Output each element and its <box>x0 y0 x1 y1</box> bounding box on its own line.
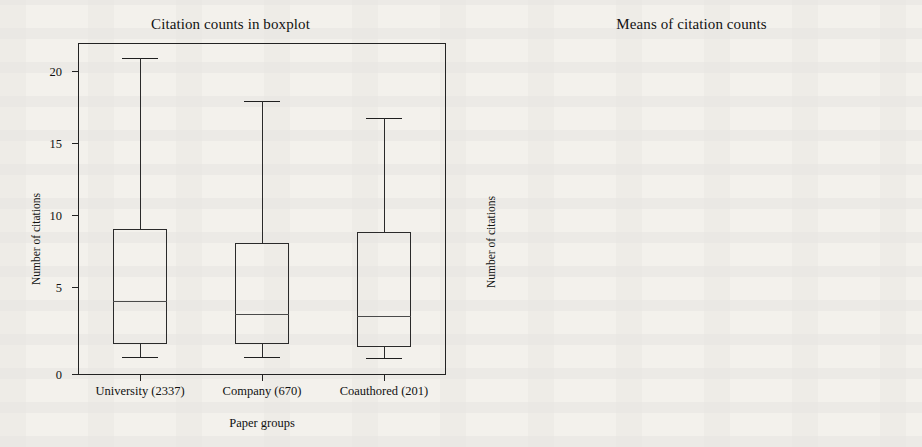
boxplot-xtick-company <box>262 374 263 381</box>
boxplot-xtick-coauthored <box>384 374 385 381</box>
box-iqr <box>357 232 411 347</box>
box-median-line <box>113 301 167 302</box>
boxplot-xtick-label-coauthored: Coauthored (201) <box>340 384 429 399</box>
boxplot-ytick-5: 5 <box>72 287 79 288</box>
box-median-line <box>357 316 411 317</box>
barchart-y-axis-label: Number of citations <box>485 196 497 288</box>
barchart-title: Means of citation counts <box>461 16 922 33</box>
boxplot-xtick-label-company: Company (670) <box>223 384 302 399</box>
figure-page: Citation counts in boxplot Number of cit… <box>0 0 922 447</box>
boxplot-ytick-15: 15 <box>72 143 79 144</box>
box-median-line <box>235 314 289 315</box>
whisker-lower <box>140 344 141 357</box>
whisker-cap-lower <box>366 358 402 359</box>
whisker-cap-lower <box>122 357 158 358</box>
box-iqr <box>113 229 167 344</box>
boxplot-ytick-0: 0 <box>72 374 79 375</box>
whisker-cap-lower <box>244 357 280 358</box>
boxplot-ytick-20: 20 <box>72 71 79 72</box>
barchart-figure: Means of citation counts Number of citat… <box>461 0 922 447</box>
whisker-lower <box>262 344 263 357</box>
whisker-upper <box>140 58 141 229</box>
boxplot-ytick-10: 10 <box>72 215 79 216</box>
boxplot-plot-area: 0 5 10 15 20 University (2337) Company (… <box>78 43 446 375</box>
box-iqr <box>235 243 289 344</box>
boxplot-x-axis-label: Paper groups <box>78 416 446 431</box>
boxplot-xtick-university <box>140 374 141 381</box>
whisker-upper <box>262 101 263 243</box>
whisker-lower <box>384 347 385 358</box>
whisker-upper <box>384 118 385 232</box>
boxplot-title: Citation counts in boxplot <box>0 16 461 33</box>
boxplot-figure: Citation counts in boxplot Number of cit… <box>0 0 461 447</box>
boxplot-y-axis-label: Number of citations <box>30 193 42 285</box>
boxplot-xtick-label-university: University (2337) <box>95 384 184 399</box>
